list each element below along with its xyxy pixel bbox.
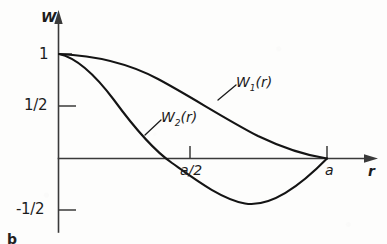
y-tick-label-1: 1 [39, 45, 48, 63]
panel-caption-label: b [7, 231, 17, 244]
x-tick-label-a: a [325, 162, 334, 178]
y-tick-label-neg-half: -1/2 [16, 200, 44, 218]
leader-line-w2 [145, 120, 161, 135]
curve-label-w1-base: W [236, 74, 250, 90]
curve-label-w2-base: W [161, 109, 175, 125]
y-tick-label-half: 1/2 [24, 96, 47, 114]
curve-label-w1-arg: (r) [256, 74, 273, 90]
x-axis-label: r [368, 163, 375, 179]
y-axis-label: W [41, 9, 56, 25]
leader-line-w1 [218, 85, 236, 100]
curve-w1 [59, 54, 327, 159]
y-axis [54, 10, 62, 232]
x-axis-arrowhead [364, 154, 378, 163]
curve-label-w1: W1(r) [236, 74, 272, 93]
x-axis-ticks [190, 146, 327, 159]
x-tick-label-a-over-2: a/2 [180, 162, 202, 178]
y-axis-ticks [59, 54, 77, 210]
curve-label-w2-arg: (r) [181, 109, 198, 125]
curve-label-w2: W2(r) [161, 109, 197, 128]
figure-panel: 1 1/2 -1/2 W r a/2 a W1(r) W2(r) b [0, 0, 387, 244]
curve-w2 [59, 54, 327, 204]
